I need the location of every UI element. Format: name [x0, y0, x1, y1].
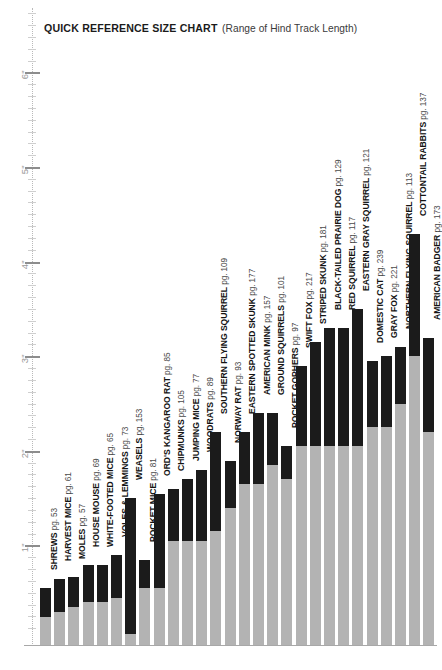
y-axis-minor-tick [28, 510, 36, 511]
bar-min-range-segment [54, 612, 65, 645]
bar-label-page: pg. 69 [92, 458, 101, 483]
bar-label: COTTONTAIL RABBITS pg. 137 [419, 92, 428, 215]
bar-label-species: CHIPMUNKS [176, 419, 186, 471]
bar-group[interactable]: WEASELS pg. 153 [125, 498, 136, 645]
bar-min-range-segment [154, 588, 165, 645]
bar-max-range-segment [125, 498, 136, 633]
bar-label: DOMESTIC CAT pg. 239 [376, 250, 385, 343]
y-axis-minor-tick [28, 155, 36, 156]
bar-group[interactable]: WHITE-FOOTED MICE pg. 65 [97, 565, 108, 645]
bar-label-page: pg. 109 [220, 258, 229, 287]
bar-group[interactable]: AMERICAN BADGER pg. 173 [423, 338, 434, 645]
bar-label-page: pg. 93 [234, 361, 243, 386]
bar-group[interactable]: RED SQUIRREL pg. 117 [338, 328, 349, 645]
bar-group[interactable]: SOUTHERN FLYING SQUIRREL pg. 109 [210, 432, 221, 645]
bar-group[interactable]: EASTERN SPOTTED SKUNK pg. 177 [239, 432, 250, 645]
bar-label-page: pg. 239 [376, 250, 385, 279]
bar-group[interactable]: EASTERN GRAY SQUIRREL pg. 121 [352, 309, 363, 645]
bar-group[interactable]: ORD'S KANGAROO RAT pg. 85 [154, 494, 165, 645]
bar-min-range-segment [338, 446, 349, 645]
bar-group[interactable]: HOUSE MOUSE pg. 69 [83, 565, 94, 645]
bar-label-species: HARVEST MICE [63, 497, 73, 561]
y-axis-tick-label: 3" [19, 355, 30, 379]
bar-max-range-segment [168, 489, 179, 541]
y-axis-minor-tick [28, 120, 36, 121]
bar-group[interactable]: JUMPING MICE pg. 77 [182, 479, 193, 645]
bar-max-range-segment [139, 560, 150, 588]
bar-min-range-segment [168, 541, 179, 645]
bar-min-range-segment [423, 432, 434, 645]
bar-group[interactable]: VOLES & LEMMINGS pg. 73 [111, 555, 122, 645]
bar-max-range-segment [54, 579, 65, 612]
bar-min-range-segment [267, 465, 278, 645]
bar-group[interactable]: POCKET MICE pg. 81 [139, 560, 150, 645]
bar-min-range-segment [40, 617, 51, 645]
bar-max-range-segment [352, 309, 363, 446]
y-axis-minor-tick [28, 593, 36, 594]
bar-min-range-segment [225, 508, 236, 645]
bar-label-page: pg. 181 [319, 226, 328, 255]
bar-label: WEASELS pg. 153 [135, 409, 144, 480]
y-axis-minor-tick [28, 191, 36, 192]
bar-max-range-segment [182, 479, 193, 540]
bar-max-range-segment [83, 565, 94, 603]
bar-label: SWIFT FOX pg. 217 [305, 272, 314, 348]
bar-group[interactable]: SWIFT FOX pg. 217 [296, 366, 307, 645]
bar-group[interactable]: SHREWS pg. 53 [40, 588, 51, 645]
bar-label-page: pg. 77 [192, 374, 201, 399]
bar-group[interactable]: BLACK-TAILED PRAIRIE DOG pg. 129 [324, 328, 335, 645]
y-axis-minor-tick [28, 333, 36, 334]
bar-group[interactable]: STRIPED SKUNK pg. 181 [310, 342, 321, 645]
y-axis-minor-tick [28, 605, 36, 606]
bar-group[interactable]: DOMESTIC CAT pg. 239 [367, 361, 378, 645]
bar-label: CHIPMUNKS pg. 105 [177, 390, 186, 471]
y-axis-minor-tick [28, 309, 36, 310]
bar-group[interactable]: POCKET GOPHERS pg. 97 [281, 446, 292, 645]
bar-group[interactable]: NORTHERN FLYING SQUIRREL pg. 113 [395, 347, 406, 645]
bar-label-page: pg. 217 [305, 272, 314, 301]
y-axis-minor-tick [28, 439, 36, 440]
bar-label: NORWAY RAT pg. 93 [234, 361, 243, 442]
y-axis-minor-tick [28, 522, 36, 523]
bar-min-range-segment [125, 634, 136, 645]
bar-label-page: pg. 57 [78, 504, 87, 529]
y-axis-minor-tick [28, 474, 36, 475]
bar-group[interactable]: COTTONTAIL RABBITS pg. 137 [409, 234, 420, 646]
y-axis-minor-tick [28, 380, 36, 381]
bar-group[interactable]: GROUND SQUIRRELS pg. 101 [267, 413, 278, 645]
bar-label-page: pg. 173 [433, 205, 442, 234]
bar-group[interactable]: WOODRATS pg. 89 [196, 470, 207, 645]
bar-label: HOUSE MOUSE pg. 69 [92, 458, 101, 547]
y-axis-minor-tick [28, 61, 36, 62]
bar-label-species: BLACK-TAILED PRAIRIE DOG [333, 189, 343, 310]
bar-group[interactable]: MOLES pg. 57 [68, 577, 79, 645]
bar-label-page: pg. 89 [206, 377, 215, 402]
bar-min-range-segment [196, 541, 207, 645]
y-axis-minor-tick [28, 344, 36, 345]
bar-max-range-segment [210, 432, 221, 531]
bar-label: MOLES pg. 57 [78, 504, 87, 559]
bar-group[interactable]: HARVEST MICE pg. 61 [54, 579, 65, 645]
y-axis-minor-tick [28, 616, 36, 617]
bar-min-range-segment [296, 446, 307, 645]
bar-group[interactable]: GRAY FOX pg. 221 [381, 356, 392, 645]
bar-label-species: ORD'S KANGAROO RAT [162, 377, 172, 476]
bar-label-page: pg. 157 [263, 296, 272, 325]
bar-group[interactable]: AMERICAN MINK pg. 157 [253, 413, 264, 645]
bar-label-species: COTTONTAIL RABBITS [418, 121, 428, 215]
y-axis-minor-tick [28, 226, 36, 227]
bar-group[interactable]: CHIPMUNKS pg. 105 [168, 489, 179, 645]
y-axis-rule [32, 8, 33, 646]
bar-label-species: AMERICAN MINK [262, 325, 272, 395]
bar-label-page: pg. 105 [177, 390, 186, 419]
chart-baseline [24, 645, 437, 646]
bar-label-species: EASTERN GRAY SQUIRREL [361, 178, 371, 291]
bar-label: WHITE-FOOTED MICE pg. 65 [106, 433, 115, 547]
y-axis-tick-label: 1" [19, 544, 30, 568]
y-axis-minor-tick [28, 581, 36, 582]
bar-label-page: pg. 137 [419, 92, 428, 121]
bar-group[interactable]: NORWAY RAT pg. 93 [225, 461, 236, 645]
y-axis-minor-tick [28, 498, 36, 499]
bar-label-page: pg. 53 [50, 508, 59, 533]
